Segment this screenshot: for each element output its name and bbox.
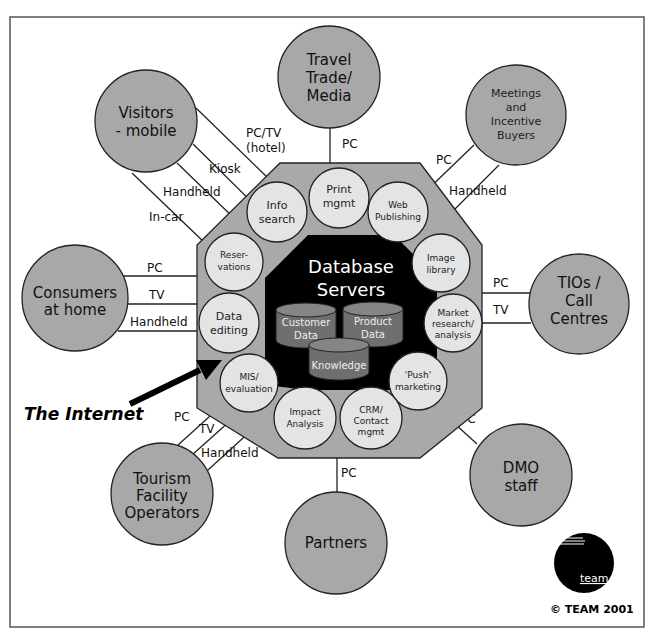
- label-kiosk: Kiosk: [209, 162, 241, 176]
- stakeholder-label: Facility: [136, 487, 188, 505]
- database-knowledge[interactable]: Knowledge: [309, 338, 369, 380]
- label-pc-tios: PC: [493, 276, 509, 290]
- database-product-label1: Product: [354, 316, 392, 327]
- label-in-car: In-car: [149, 210, 183, 224]
- stakeholder-label: Meetings: [491, 87, 541, 100]
- function-web-publishing[interactable]: Web Publishing: [368, 182, 428, 242]
- function-label: analysis: [435, 330, 472, 340]
- database-customer-label1: Customer: [282, 317, 331, 328]
- arrow-shaft: [130, 370, 200, 404]
- label-tv-tios: TV: [492, 303, 509, 317]
- stakeholder-label: Trade/: [305, 69, 353, 87]
- label-handheld-tourism: Handheld: [201, 446, 259, 460]
- label-pc-tourism: PC: [174, 410, 190, 424]
- label-pc-meetings: PC: [436, 153, 452, 167]
- copyright-text: © TEAM 2001: [550, 603, 634, 616]
- function-label: Contact: [353, 416, 388, 426]
- function-print-mgmt[interactable]: Print mgmt: [309, 168, 369, 228]
- stakeholder-label: Incentive: [491, 115, 542, 128]
- database-knowledge-label: Knowledge: [312, 360, 367, 371]
- stakeholder-label: Travel: [306, 51, 352, 69]
- function-circle: [247, 182, 307, 242]
- function-data-editing[interactable]: Data editing: [199, 293, 259, 353]
- label-hotel: (hotel): [246, 141, 286, 155]
- database-knowledge-top: [309, 338, 369, 352]
- function-label: Data: [216, 310, 242, 323]
- database-title-line1: Database: [308, 256, 394, 277]
- stakeholder-meetings-buyers[interactable]: Meetings and Incentive Buyers: [466, 65, 566, 165]
- stakeholder-label: Buyers: [497, 129, 535, 142]
- stakeholder-label: Partners: [305, 534, 368, 552]
- function-label: Publishing: [375, 212, 421, 222]
- function-label: CRM/: [359, 405, 383, 415]
- stakeholder-label: TIOs /: [556, 274, 601, 292]
- function-label: Web: [388, 200, 408, 210]
- team-logo-text: team: [580, 572, 609, 585]
- function-label: vations: [218, 262, 251, 272]
- stakeholder-consumers-home[interactable]: Consumers at home: [22, 245, 128, 351]
- stakeholder-label: Centres: [550, 310, 608, 328]
- label-pc-consumers: PC: [147, 261, 163, 275]
- stakeholder-label: - mobile: [115, 122, 176, 140]
- label-handheld: Handheld: [163, 185, 221, 199]
- function-label: mgmt: [323, 197, 356, 210]
- function-info-search[interactable]: Info search: [247, 182, 307, 242]
- database-product-label2: Data: [361, 329, 385, 340]
- function-circle: [220, 354, 278, 412]
- stakeholder-label: Call: [565, 292, 593, 310]
- label-pc-travel: PC: [342, 137, 358, 151]
- function-label: mgmt: [358, 427, 385, 437]
- stakeholder-tios-call-centres[interactable]: TIOs / Call Centres: [529, 254, 629, 354]
- stakeholder-label: Operators: [125, 504, 200, 522]
- function-label: Reser-: [220, 250, 248, 260]
- function-market-research[interactable]: Market research/ analysis: [424, 294, 482, 352]
- label-pc-partners: PC: [341, 466, 357, 480]
- database-customer-label2: Data: [294, 330, 318, 341]
- function-mis-evaluation[interactable]: MIS/ evaluation: [220, 354, 278, 412]
- stakeholder-dmo-staff[interactable]: DMO staff: [470, 424, 572, 526]
- connector-visitors-incar: [132, 173, 207, 245]
- function-label: library: [427, 265, 457, 275]
- function-label: Analysis: [286, 419, 323, 429]
- stakeholder-visitors-mobile[interactable]: Visitors - mobile: [95, 70, 197, 172]
- function-label: Image: [427, 253, 456, 263]
- function-label: Market: [438, 308, 469, 318]
- function-impact-analysis[interactable]: Impact Analysis: [274, 387, 336, 449]
- stakeholder-tourism-operators[interactable]: Tourism Facility Operators: [111, 443, 213, 545]
- function-label: Print: [326, 183, 352, 196]
- database-customer-top: [276, 303, 336, 317]
- function-label: Info: [267, 199, 288, 212]
- database-title-line2: Servers: [317, 279, 385, 300]
- function-label: 'Push': [405, 370, 431, 380]
- label-handheld-consumers: Handheld: [130, 315, 188, 329]
- team-logo: team © TEAM 2001: [550, 533, 634, 616]
- label-pc-tv: PC/TV: [246, 126, 282, 140]
- function-circle: [199, 293, 259, 353]
- stakeholder-partners[interactable]: Partners: [285, 492, 387, 594]
- function-label: evaluation: [225, 384, 272, 394]
- stakeholder-label: DMO: [503, 459, 539, 477]
- database-product-top: [343, 302, 403, 316]
- function-circle: [412, 234, 470, 292]
- stakeholder-travel-trade[interactable]: Travel Trade/ Media: [278, 26, 380, 128]
- stakeholder-label: Visitors: [118, 104, 173, 122]
- function-crm[interactable]: CRM/ Contact mgmt: [340, 387, 402, 449]
- stakeholder-label: staff: [504, 477, 538, 495]
- label-tv-consumers: TV: [148, 288, 165, 302]
- function-circle: [274, 387, 336, 449]
- function-label: MIS/: [239, 372, 259, 382]
- stakeholder-label: Consumers: [33, 284, 117, 302]
- function-reservations[interactable]: Reser- vations: [205, 233, 263, 291]
- function-label: marketing: [395, 382, 441, 392]
- function-label: Impact: [289, 407, 321, 417]
- stakeholder-label: and: [506, 101, 527, 114]
- function-label: search: [259, 213, 296, 226]
- internet-annotation: The Internet: [24, 360, 222, 424]
- internet-dmo-diagram: PC/TV (hotel) Kiosk Handheld In-car PC P…: [0, 0, 653, 640]
- label-tv-tourism: TV: [198, 422, 215, 436]
- stakeholder-label: at home: [44, 301, 106, 319]
- stakeholder-label: Media: [306, 87, 351, 105]
- function-image-library[interactable]: Image library: [412, 234, 470, 292]
- stakeholder-label: Tourism: [132, 470, 191, 488]
- function-label: research/: [432, 319, 475, 329]
